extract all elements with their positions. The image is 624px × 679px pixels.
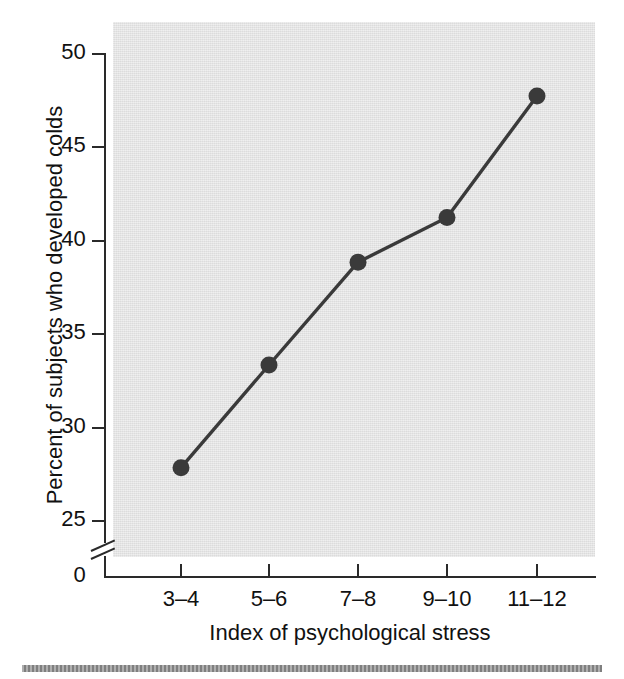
- data-series-layer: [0, 0, 624, 679]
- bottom-divider-rule: [22, 665, 602, 672]
- data-point-3: [350, 254, 367, 271]
- data-point-2: [261, 357, 278, 374]
- series-markers: [173, 88, 546, 477]
- data-point-1: [173, 459, 190, 476]
- data-point-4: [439, 209, 456, 226]
- series-line: [181, 96, 537, 468]
- chart-figure: 50 45 40 35 30 25 0 3–4 5–6 7–8 9–10 11–…: [0, 0, 624, 679]
- data-point-5: [529, 88, 546, 105]
